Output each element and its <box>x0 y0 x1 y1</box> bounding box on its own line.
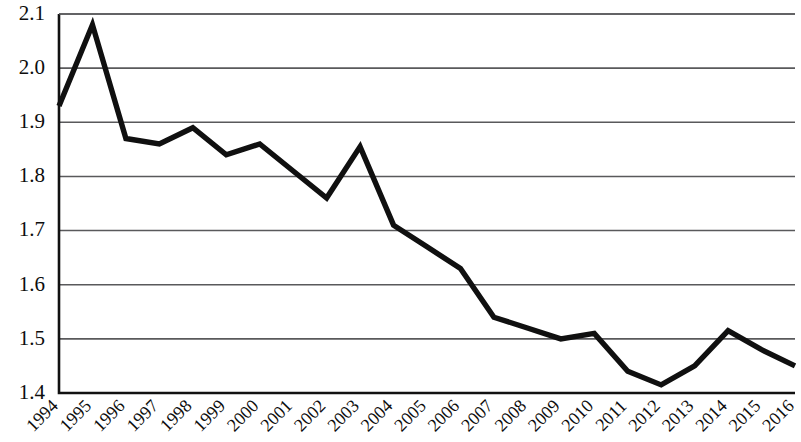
data-series <box>59 25 795 385</box>
gridlines <box>59 14 795 339</box>
x-axis-tick-label: 2013 <box>658 396 698 436</box>
line-chart: 1.41.51.61.71.81.92.02.1 199419951996199… <box>0 0 801 442</box>
y-axis-tick-label: 1.5 <box>19 326 45 350</box>
y-axis-tick-label: 1.4 <box>19 380 46 404</box>
x-axis-tick-label: 1995 <box>56 396 96 436</box>
x-axis-tick-label: 2010 <box>558 396 598 436</box>
x-axis-tick-label: 1999 <box>190 396 230 436</box>
y-axis-tick-labels: 1.41.51.61.71.81.92.02.1 <box>19 1 46 404</box>
x-axis-tick-label: 2016 <box>758 396 798 436</box>
x-axis-tick-label: 1996 <box>89 396 129 436</box>
x-axis-tick-label: 2003 <box>323 396 363 436</box>
y-axis-tick-label: 1.9 <box>19 109 45 133</box>
x-axis-tick-label: 2012 <box>624 396 664 436</box>
x-axis-tick-label: 1998 <box>156 396 196 436</box>
x-axis-tick-labels: 1994199519961997199819992000200120022003… <box>22 396 798 436</box>
axes <box>59 14 795 393</box>
x-axis-tick-label: 2008 <box>491 396 531 436</box>
x-axis-tick-label: 1997 <box>123 396 163 436</box>
x-axis-tick-label: 2004 <box>357 396 397 436</box>
x-axis-tick-label: 2000 <box>223 396 263 436</box>
x-axis-tick-label: 2002 <box>290 396 330 436</box>
x-axis-tick-label: 2006 <box>424 396 464 436</box>
x-axis-tick-label: 2009 <box>524 396 564 436</box>
x-axis-tick-label: 2001 <box>256 396 296 436</box>
axis-spine <box>59 14 795 393</box>
y-axis-tick-label: 1.7 <box>19 217 45 241</box>
x-axis-tick-label: 2007 <box>457 396 497 436</box>
series-line <box>59 25 795 385</box>
y-axis-tick-label: 2.1 <box>19 1 45 25</box>
y-axis-tick-label: 1.6 <box>19 272 45 296</box>
x-axis-tick-label: 2005 <box>390 396 430 436</box>
x-axis-tick-label: 2014 <box>691 396 731 436</box>
chart-canvas: 1.41.51.61.71.81.92.02.1 199419951996199… <box>0 0 801 442</box>
x-axis-tick-label: 2015 <box>725 396 765 436</box>
x-axis-tick-label: 2011 <box>591 396 630 435</box>
y-axis-tick-label: 2.0 <box>19 55 45 79</box>
y-axis-tick-label: 1.8 <box>19 163 45 187</box>
